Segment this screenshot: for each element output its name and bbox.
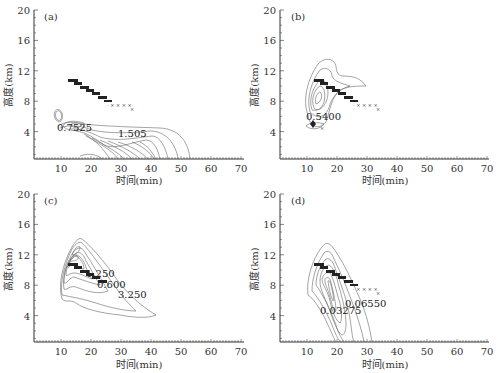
x-tick: 40: [391, 163, 404, 174]
x-tick: 70: [235, 346, 248, 357]
y-tick: 16: [263, 35, 276, 46]
y-axis-title: 高度(km): [248, 247, 260, 290]
y-tick: 20: [263, 189, 276, 200]
x-tick: 30: [115, 163, 128, 174]
x-tick: 10: [55, 346, 68, 357]
y-tick: 8: [24, 280, 30, 291]
svg-text:· × × × ×: · × × × ×: [353, 102, 378, 108]
x-tick: 10: [301, 163, 314, 174]
y-tick: 16: [17, 35, 30, 46]
panel-a: 20 16 12 8 4 10 20 30 40 50 60 70 时间(min…: [0, 0, 248, 190]
panel-d: 20 16 12 8 4 10 20 30 40 50 60 70 时间(min…: [248, 185, 497, 373]
x-tick: 60: [451, 346, 464, 357]
y-axis-title: 高度(km): [248, 63, 260, 106]
y-tick: 20: [263, 5, 276, 16]
y-axis-title: 高度(km): [2, 63, 14, 106]
x-tick: 30: [361, 346, 374, 357]
y-tick: 4: [270, 127, 276, 138]
x-axis-title: 时间(min): [116, 358, 163, 370]
x-tick: 70: [481, 163, 494, 174]
overlay-markers: · × × × × ×: [68, 79, 134, 112]
panel-label: (c): [44, 195, 58, 206]
y-tick: 12: [263, 250, 276, 261]
svg-text:×: ×: [376, 290, 380, 296]
contour-chart-c: 20 16 12 8 4 10 20 30 40 50 60 70 时间(min…: [0, 185, 248, 373]
overlay-markers: · × × × × ×: [314, 263, 380, 296]
y-tick: 20: [17, 189, 30, 200]
x-tick: 20: [331, 346, 344, 357]
x-axis-title: 时间(min): [362, 358, 409, 370]
y-tick: 16: [263, 219, 276, 230]
x-tick: 20: [85, 346, 98, 357]
panel-label: (b): [291, 11, 305, 22]
svg-text:×: ×: [130, 106, 134, 112]
y-tick: 12: [263, 66, 276, 77]
y-tick: 4: [270, 311, 276, 322]
x-tick: 40: [145, 346, 158, 357]
x-tick: 10: [301, 346, 314, 357]
y-tick: 12: [17, 250, 30, 261]
contour-chart-d: 20 16 12 8 4 10 20 30 40 50 60 70 时间(min…: [248, 185, 497, 373]
y-tick: 16: [17, 219, 30, 230]
svg-text:×: ×: [376, 106, 380, 112]
x-tick: 20: [331, 163, 344, 174]
contour-label: 3.250: [118, 289, 147, 300]
contour-label: 0.5400: [306, 111, 341, 122]
contour-label: 1.250: [86, 268, 115, 279]
x-tick: 50: [421, 346, 434, 357]
x-tick: 60: [205, 346, 218, 357]
panel-c: 20 16 12 8 4 10 20 30 40 50 60 70 时间(min…: [0, 185, 248, 373]
y-tick: 12: [17, 66, 30, 77]
contour-label: 0.7525: [57, 122, 92, 133]
x-tick: 50: [175, 163, 188, 174]
x-tick: 20: [85, 163, 98, 174]
x-tick: 40: [391, 346, 404, 357]
contour-lines: [308, 243, 372, 342]
y-tick: 4: [24, 127, 30, 138]
x-tick: 60: [205, 163, 218, 174]
x-tick: 70: [235, 163, 248, 174]
contour-chart-b: 20 16 12 8 4 10 20 30 40 50 60 70 时间(min…: [248, 0, 497, 186]
x-tick: 10: [55, 163, 68, 174]
y-tick: 8: [270, 280, 276, 291]
x-tick: 50: [175, 346, 188, 357]
panel-b: 20 16 12 8 4 10 20 30 40 50 60 70 时间(min…: [248, 0, 497, 190]
y-axis-title: 高度(km): [2, 247, 14, 290]
y-tick: 8: [24, 96, 30, 107]
panel-label: (d): [291, 195, 305, 206]
y-tick: 8: [270, 96, 276, 107]
y-tick: 4: [24, 311, 30, 322]
x-tick: 40: [145, 163, 158, 174]
panel-label: (a): [44, 11, 58, 22]
x-tick: 60: [451, 163, 464, 174]
x-tick: 70: [481, 346, 494, 357]
contour-chart-a: 20 16 12 8 4 10 20 30 40 50 60 70 时间(min…: [0, 0, 248, 186]
svg-text:· × × × ×: · × × × ×: [107, 102, 132, 108]
x-tick: 30: [115, 346, 128, 357]
contour-label: 0.03275: [320, 305, 361, 316]
svg-text:· × × × ×: · × × × ×: [353, 286, 378, 292]
y-tick: 20: [17, 5, 30, 16]
svg-text:×: ×: [320, 125, 324, 131]
x-tick: 50: [421, 163, 434, 174]
contour-label: 1.505: [118, 128, 147, 139]
x-tick: 30: [361, 163, 374, 174]
